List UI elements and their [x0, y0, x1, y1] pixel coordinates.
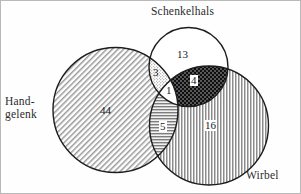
region-count-all-three: 1 — [166, 85, 172, 96]
region-count-handgelenk-wirbel: 5 — [159, 121, 167, 132]
venn-diagram-figure: Schenkelhals Hand-gelenk Wirbel 44 13 16… — [0, 0, 301, 194]
region-count-handgelenk-schenkelhals: 3 — [153, 67, 159, 78]
region-count-schenkelhals-only: 13 — [177, 49, 188, 60]
set-label-schenkelhals: Schenkelhals — [151, 5, 214, 18]
set-label-handgelenk-line1: Hand- — [5, 95, 35, 107]
region-count-schenkelhals-wirbel: 4 — [190, 75, 198, 86]
venn-diagram-canvas — [1, 1, 301, 194]
region-count-wirbel-only: 16 — [204, 120, 217, 131]
set-label-handgelenk: Hand-gelenk — [5, 95, 37, 120]
set-label-handgelenk-line2: gelenk — [5, 108, 37, 120]
set-label-wirbel: Wirbel — [246, 169, 279, 182]
region-count-handgelenk-only: 44 — [100, 105, 111, 116]
